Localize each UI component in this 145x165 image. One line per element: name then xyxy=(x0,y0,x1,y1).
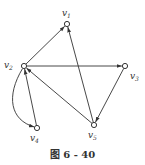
node-v1 xyxy=(64,21,69,26)
node-v2 xyxy=(21,63,26,68)
figure-caption: 图 6 - 40 xyxy=(0,146,145,161)
node-label-v2: v2 xyxy=(4,60,13,71)
node-label-v3: v3 xyxy=(130,71,139,82)
directed-graph: v1v2v3v4v5 xyxy=(0,0,145,145)
edge-v5-v1 xyxy=(68,27,94,122)
edge-v2-v1 xyxy=(26,26,65,64)
node-v5 xyxy=(91,122,96,127)
node-v4 xyxy=(34,125,39,130)
node-label-v4: v4 xyxy=(30,133,39,144)
node-label-v1: v1 xyxy=(62,8,71,19)
edge-v4-v2 xyxy=(25,69,37,125)
edges-layer xyxy=(13,26,124,127)
edge-v5-v2 xyxy=(26,68,92,123)
edge-v3-v5 xyxy=(95,68,123,122)
node-v3 xyxy=(122,63,127,68)
node-label-v5: v5 xyxy=(88,130,97,141)
nodes-layer: v1v2v3v4v5 xyxy=(4,8,139,144)
